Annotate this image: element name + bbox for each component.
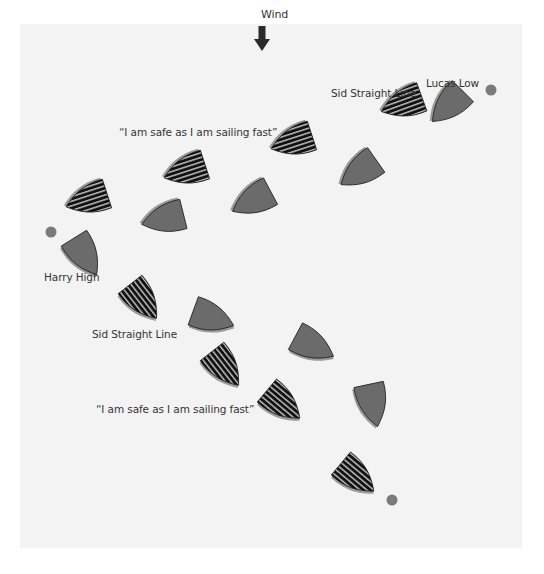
boat-gray	[330, 146, 385, 198]
mark-buoy-icon	[46, 227, 57, 238]
boat-gray	[287, 323, 342, 373]
boat-gray	[223, 176, 278, 226]
boat-striped	[256, 379, 311, 433]
boat-striped	[116, 275, 169, 330]
quote-label-bottom: “I am safe as I am sailing fast”	[96, 403, 254, 415]
boat-gray	[352, 381, 393, 431]
wind-arrow-icon	[254, 26, 270, 51]
boat-striped	[59, 177, 111, 222]
boats-layer	[59, 79, 473, 506]
sid-straight-line-label-bottom: Sid Straight Line	[92, 328, 177, 340]
wind-label: Wind	[261, 8, 288, 21]
sid-straight-line-label-top: Sid Straight Line	[331, 87, 416, 99]
boat-striped	[198, 342, 251, 397]
mark-buoy-icon	[387, 495, 398, 506]
lucas-low-label: Lucas Low	[426, 77, 479, 89]
harry-high-label: Harry High	[44, 271, 99, 283]
quote-label-top: “I am safe as I am sailing fast”	[119, 126, 277, 138]
boat-striped	[330, 452, 385, 506]
boat-gray	[187, 297, 240, 343]
boat-gray	[136, 197, 187, 239]
boat-striped	[157, 148, 209, 193]
mark-buoy-icon	[486, 85, 497, 96]
